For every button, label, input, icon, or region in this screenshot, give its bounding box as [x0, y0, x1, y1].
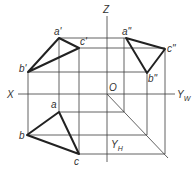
projection-diagram: Z X O YW YH a' c' b' a" c" b" a b c: [0, 0, 194, 172]
label-a-double-prime: a": [122, 26, 132, 37]
label-c: c: [74, 156, 79, 167]
label-b-prime: b': [19, 63, 28, 74]
label-b: b: [19, 130, 25, 141]
label-b-double-prime: b": [148, 73, 158, 84]
label-a-prime: a': [54, 26, 63, 37]
label-c-prime: c': [80, 36, 88, 47]
side-view-triangle: [126, 38, 165, 73]
top-view-triangle: [27, 112, 79, 154]
yh-axis-label: YH: [111, 139, 124, 152]
label-a: a: [51, 99, 57, 110]
z-axis-label: Z: [102, 4, 110, 15]
yw-axis-label: YW: [177, 89, 192, 102]
front-view-triangle: [28, 38, 79, 72]
origin-label: O: [109, 82, 117, 93]
label-c-double-prime: c": [167, 43, 176, 54]
x-axis-label: X: [6, 89, 14, 100]
